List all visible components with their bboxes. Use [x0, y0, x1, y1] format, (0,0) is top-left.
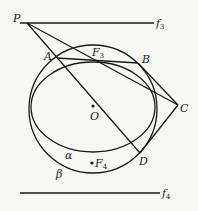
segment-CD: [140, 105, 178, 153]
label-D: D: [138, 155, 148, 168]
label-A: A: [43, 50, 52, 63]
segment-BC: [138, 63, 178, 105]
point-F4-dot: [90, 161, 93, 164]
label-f3: f3: [155, 17, 165, 31]
point-O-dot: [91, 104, 94, 107]
segment-PD: [27, 23, 140, 153]
label-C: C: [180, 102, 189, 115]
segment-PC: [27, 23, 178, 105]
label-F3: F3: [91, 46, 104, 60]
label-O: O: [90, 110, 99, 123]
label-f4: f4: [161, 187, 171, 201]
label-beta: β: [55, 168, 62, 181]
label-B: B: [141, 53, 150, 66]
curve-beta-circle: [29, 45, 157, 173]
geometry-diagram: P f3 A F3 B C O D α F4 β f4: [0, 0, 198, 211]
label-F4: F4: [94, 157, 108, 171]
label-P: P: [12, 12, 21, 25]
label-alpha: α: [65, 149, 73, 162]
